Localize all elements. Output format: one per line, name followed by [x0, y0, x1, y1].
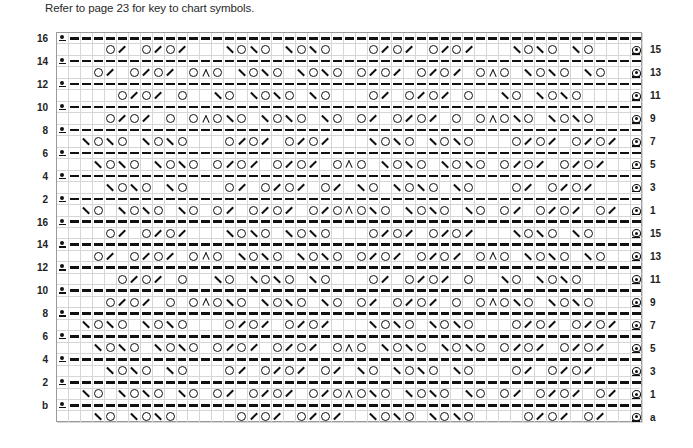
ssk-icon	[224, 44, 235, 54]
chart-cell	[392, 308, 404, 319]
chart-cell	[535, 331, 547, 342]
chart-cell	[320, 354, 332, 365]
chart-cell	[236, 343, 248, 354]
chart-cell	[105, 320, 117, 331]
purl-dash-icon	[105, 171, 116, 181]
chart-cell	[475, 239, 487, 250]
chart-cell	[535, 159, 547, 170]
purl-dash-icon	[607, 354, 618, 364]
chart-cell	[404, 113, 416, 124]
ssk-icon	[404, 205, 415, 215]
chart-cell	[93, 148, 105, 159]
purl-dash-icon	[523, 285, 534, 295]
purl-dash-icon	[535, 102, 546, 112]
yarn-over-icon	[511, 136, 522, 146]
purl-dash-icon	[284, 239, 295, 249]
chart-cell	[487, 102, 499, 113]
chart-cell	[93, 102, 105, 113]
ssk-icon	[153, 343, 164, 353]
chart-cell	[428, 239, 440, 250]
row-number-label: b	[26, 400, 48, 411]
chart-cell	[535, 79, 547, 90]
purl-dash-icon	[475, 33, 486, 43]
purl-dash-icon	[428, 285, 439, 295]
chart-cell	[404, 239, 416, 250]
chart-cell	[212, 308, 224, 319]
chart-cell	[177, 274, 189, 285]
chart-cell	[428, 354, 440, 365]
purl-dash-icon	[153, 217, 164, 227]
chart-cell	[440, 194, 452, 205]
purl-dash-icon	[272, 217, 283, 227]
purl-dash-icon	[451, 308, 462, 318]
yarn-over-icon	[105, 411, 116, 421]
chart-cell	[475, 285, 487, 296]
purl-dash-icon	[224, 400, 235, 410]
purl-dash-icon	[129, 354, 140, 364]
chart-cell	[188, 136, 200, 147]
chart-cell	[93, 205, 105, 216]
chart-cell	[81, 205, 93, 216]
purl-dash-icon	[523, 79, 534, 89]
chart-cell	[463, 217, 475, 228]
chart-cell	[200, 366, 212, 377]
chart-cell	[129, 125, 141, 136]
purl-dash-icon	[188, 125, 199, 135]
k2tog-icon	[583, 136, 594, 146]
purl-dash-icon	[224, 285, 235, 295]
purl-dash-icon	[177, 148, 188, 158]
chart-cell	[523, 44, 535, 55]
chart-cell	[511, 343, 523, 354]
yarn-over-icon	[188, 389, 199, 399]
chart-cell	[344, 125, 356, 136]
chart-cell	[356, 182, 368, 193]
yarn-over-icon	[571, 136, 582, 146]
chart-cell	[571, 377, 583, 388]
k2tog-icon	[583, 182, 594, 192]
purl-dash-icon	[380, 125, 391, 135]
chart-cell	[559, 90, 571, 101]
chart-cell	[141, 194, 153, 205]
chart-cell	[487, 171, 499, 182]
purl-dash-icon	[475, 354, 486, 364]
yarn-over-icon	[416, 297, 427, 307]
chart-cell	[260, 67, 272, 78]
chart-cell	[511, 217, 523, 228]
chart-cell	[523, 239, 535, 250]
chart-cell	[404, 44, 416, 55]
purl-dash-icon	[595, 308, 606, 318]
purl-dash-icon	[165, 102, 176, 112]
chart-cell	[236, 366, 248, 377]
chart-cell	[69, 102, 81, 113]
purl-dash-icon	[117, 33, 128, 43]
ssk-icon	[535, 44, 546, 54]
yarn-over-icon	[463, 182, 474, 192]
purl-dash-icon	[356, 148, 367, 158]
chart-cell	[380, 366, 392, 377]
chart-cell	[165, 274, 177, 285]
row-number-label: 15	[650, 44, 674, 55]
chart-cell	[188, 411, 200, 422]
chart-cell	[260, 366, 272, 377]
purl-dash-icon	[141, 102, 152, 112]
chart-cell	[296, 136, 308, 147]
chart-cell	[200, 79, 212, 90]
yarn-over-icon	[129, 159, 140, 169]
purl-dash-icon	[607, 331, 618, 341]
chart-cell	[129, 377, 141, 388]
purl-dash-icon	[631, 308, 642, 318]
purl-dash-icon	[451, 171, 462, 181]
chart-cell	[631, 320, 643, 331]
purl-dash-icon	[260, 262, 271, 272]
chart-cell	[631, 228, 643, 239]
chart-cell	[344, 285, 356, 296]
chart-cell	[105, 228, 117, 239]
chart-cell	[463, 389, 475, 400]
chart-cell	[272, 343, 284, 354]
purl-dash-icon	[332, 285, 343, 295]
chart-cell	[475, 400, 487, 411]
yarn-over-icon	[511, 90, 522, 100]
purl-dash-icon	[619, 171, 630, 181]
purl-dash-icon	[165, 331, 176, 341]
purl-dash-icon	[248, 400, 259, 410]
